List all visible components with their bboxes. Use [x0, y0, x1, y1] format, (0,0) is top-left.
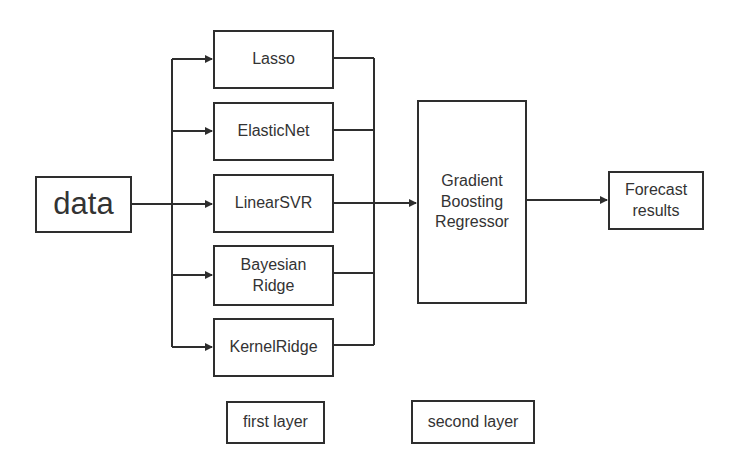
bayesianridge-node: Bayesian Ridge	[213, 245, 334, 306]
elasticnet-node: ElasticNet	[213, 102, 334, 161]
forecast-label-line1: Forecast	[625, 180, 687, 201]
linearsvr-label: LinearSVR	[235, 193, 312, 214]
forecast-results-node: Forecast results	[608, 171, 704, 230]
first-layer-legend-label: first layer	[243, 412, 308, 433]
linearsvr-node: LinearSVR	[213, 174, 334, 233]
gbr-label-line3: Regressor	[435, 212, 509, 233]
bayesianridge-label-line1: Bayesian	[241, 255, 307, 276]
kernelridge-node: KernelRidge	[213, 318, 334, 377]
lasso-label: Lasso	[252, 49, 295, 70]
kernelridge-label: KernelRidge	[229, 337, 317, 358]
stacking-diagram: data Lasso ElasticNet LinearSVR Bayesian…	[0, 0, 729, 466]
lasso-node: Lasso	[213, 30, 334, 89]
gradient-boosting-regressor-node: Gradient Boosting Regressor	[417, 100, 527, 304]
forecast-label-line2: results	[632, 201, 679, 222]
elasticnet-label: ElasticNet	[237, 121, 309, 142]
second-layer-legend-label: second layer	[428, 412, 519, 433]
data-node: data	[35, 176, 132, 233]
gbr-label-line2: Boosting	[441, 192, 503, 213]
bayesianridge-label-line2: Ridge	[253, 276, 295, 297]
second-layer-legend: second layer	[411, 400, 535, 444]
connector-lines	[0, 0, 729, 466]
gbr-label-line1: Gradient	[441, 171, 502, 192]
first-layer-legend: first layer	[226, 401, 325, 444]
data-label: data	[53, 184, 113, 224]
